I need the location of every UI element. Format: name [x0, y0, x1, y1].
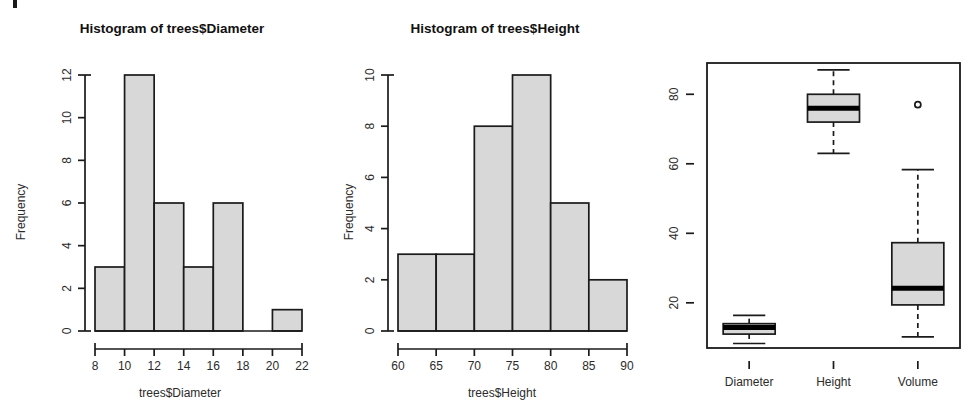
x-tick-label-16: 16 — [207, 359, 221, 373]
hist-bar-65-70 — [436, 254, 474, 331]
y-tick-label-6: 6 — [60, 199, 74, 206]
y-axis-label-height: Frequency — [342, 184, 356, 241]
boxplot-boxes — [723, 70, 944, 344]
boxplot-group-Height — [808, 70, 860, 153]
box-iqr-Volume — [892, 243, 944, 305]
y-axis-label-diameter: Frequency — [14, 184, 28, 241]
panel-histogram-diameter: Histogram of trees$Diameter 024681012 81… — [0, 0, 330, 419]
x-tick-label-65: 65 — [429, 359, 443, 373]
hist-bar-20-22 — [272, 310, 302, 331]
hist-bar-80-85 — [551, 203, 589, 331]
y-tick-label-8: 8 — [60, 157, 74, 164]
y-tick-label-12: 12 — [60, 68, 74, 82]
x-tick-label-75: 75 — [506, 359, 520, 373]
x-tick-label-60: 60 — [391, 359, 405, 373]
y-tick-label-40: 40 — [667, 226, 681, 240]
chart-title-diameter: Histogram of trees$Diameter — [80, 21, 265, 36]
hist-bar-75-80 — [513, 75, 551, 331]
x-tick-label-14: 14 — [177, 359, 191, 373]
y-axis-diameter: 024681012 — [60, 68, 91, 334]
hist-bar-14-16 — [184, 267, 214, 331]
boxplot-svg: 20406080 DiameterHeightVolume — [660, 0, 980, 419]
y-tick-label-20: 20 — [667, 296, 681, 310]
x-tick-label-22: 22 — [295, 359, 309, 373]
histogram-bars-diameter — [95, 75, 302, 331]
y-tick-label-2: 2 — [363, 276, 377, 283]
y-tick-label-4: 4 — [60, 242, 74, 249]
x-tick-label-20: 20 — [266, 359, 280, 373]
boxplot-group-Diameter — [723, 315, 775, 343]
y-tick-label-0: 0 — [363, 327, 377, 334]
x-axis-label-diameter: trees$Diameter — [139, 386, 221, 400]
chart-title-height: Histogram of trees$Height — [411, 21, 580, 36]
histogram-diameter-svg: Histogram of trees$Diameter 024681012 81… — [0, 0, 330, 419]
y-tick-label-4: 4 — [363, 225, 377, 232]
hist-bar-85-90 — [589, 280, 627, 331]
y-tick-label-6: 6 — [363, 174, 377, 181]
x-tick-label-80: 80 — [544, 359, 558, 373]
boxplot-group-Volume — [892, 102, 944, 337]
hist-bar-60-65 — [398, 254, 436, 331]
x-axis-height: 60657075808590 — [391, 343, 634, 373]
y-axis-height: 0246810 — [363, 68, 394, 334]
panel-boxplot: 20406080 DiameterHeightVolume — [660, 0, 980, 419]
panel-histogram-height: Histogram of trees$Height 0246810 606570… — [330, 0, 660, 419]
y-axis-boxplot: 20406080 — [667, 87, 694, 309]
y-tick-label-60: 60 — [667, 157, 681, 171]
y-tick-label-10: 10 — [60, 111, 74, 125]
histogram-bars-height — [398, 75, 627, 331]
x-tick-label-Height: Height — [816, 375, 851, 389]
x-tick-label-90: 90 — [620, 359, 634, 373]
x-tick-label-10: 10 — [118, 359, 132, 373]
x-axis-boxplot: DiameterHeightVolume — [725, 361, 938, 389]
x-tick-label-Volume: Volume — [898, 375, 938, 389]
y-tick-label-80: 80 — [667, 87, 681, 101]
y-tick-label-8: 8 — [363, 123, 377, 130]
outlier-Volume-0 — [915, 102, 921, 108]
histogram-height-svg: Histogram of trees$Height 0246810 606570… — [330, 0, 660, 419]
x-axis-diameter: 810121416182022 — [92, 343, 309, 373]
hist-bar-10-12 — [125, 75, 155, 331]
hist-bar-16-18 — [213, 203, 243, 331]
figure-root: Histogram of trees$Diameter 024681012 81… — [0, 0, 980, 419]
x-tick-label-18: 18 — [236, 359, 250, 373]
hist-bar-8-10 — [95, 267, 125, 331]
y-tick-label-0: 0 — [60, 327, 74, 334]
x-tick-label-Diameter: Diameter — [725, 375, 774, 389]
y-tick-label-10: 10 — [363, 68, 377, 82]
hist-bar-12-14 — [154, 203, 184, 331]
x-tick-label-70: 70 — [468, 359, 482, 373]
x-tick-label-8: 8 — [92, 359, 99, 373]
x-tick-label-85: 85 — [582, 359, 596, 373]
y-tick-label-2: 2 — [60, 285, 74, 292]
x-axis-label-height: trees$Height — [468, 386, 537, 400]
x-tick-label-12: 12 — [147, 359, 161, 373]
hist-bar-70-75 — [474, 126, 512, 331]
